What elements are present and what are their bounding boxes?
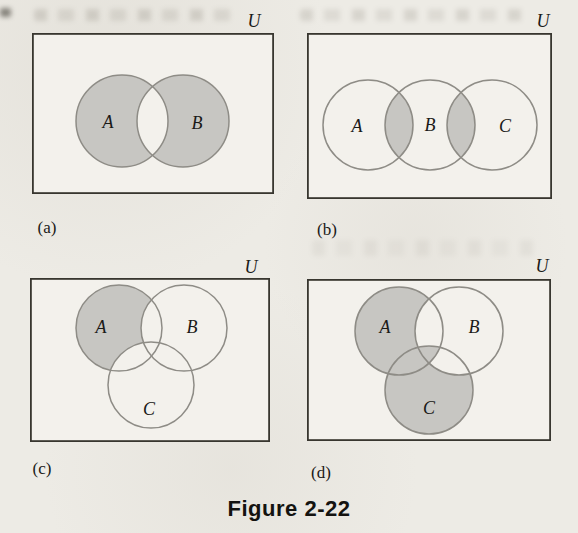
set-c-label: C xyxy=(143,400,155,418)
set-b-label: B xyxy=(469,318,480,336)
universe-label: U xyxy=(536,257,549,275)
set-a-label: A xyxy=(352,117,363,135)
panel-caption-c: (c) xyxy=(33,460,52,477)
textbook-figure-page: U A B (a) U A B C (b) U A B C (c) xyxy=(0,0,578,533)
universe-label: U xyxy=(245,258,258,276)
bleed-through-artifact xyxy=(0,8,11,17)
venn-diagram-a xyxy=(32,33,274,194)
universe-label: U xyxy=(537,12,550,30)
bleed-through-artifact xyxy=(312,240,542,256)
figure-caption: Figure 2-22 xyxy=(0,496,578,522)
bleed-through-artifact xyxy=(34,9,238,21)
set-b-label: B xyxy=(187,318,198,336)
set-b-label: B xyxy=(425,116,436,134)
panel-caption-d: (d) xyxy=(311,464,331,481)
set-a-label: A xyxy=(96,318,107,336)
universe-label: U xyxy=(248,12,261,30)
set-c-label: C xyxy=(499,117,511,135)
panel-caption-a: (a) xyxy=(38,219,57,236)
set-a-label: A xyxy=(103,113,114,131)
bleed-through-artifact xyxy=(300,9,522,21)
set-a-label: A xyxy=(380,318,391,336)
set-c-label: C xyxy=(423,399,435,417)
panel-caption-b: (b) xyxy=(317,221,337,238)
set-b-label: B xyxy=(192,114,203,132)
